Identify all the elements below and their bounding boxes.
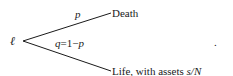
outcome-life-text: Life, with assets	[112, 65, 187, 76]
branch-prob-death: p	[75, 8, 81, 20]
root-node-label: ℓ	[10, 35, 15, 47]
outcome-life-math: s/N	[187, 65, 202, 76]
prob-var-p: p	[78, 37, 84, 49]
outcome-life: Life, with assets s/N	[112, 65, 201, 76]
branch-prob-life: q=1−p	[55, 37, 84, 49]
outcome-death: Death	[112, 7, 138, 19]
trailing-period: .	[214, 36, 217, 48]
prob-eq: =1−	[61, 37, 79, 49]
